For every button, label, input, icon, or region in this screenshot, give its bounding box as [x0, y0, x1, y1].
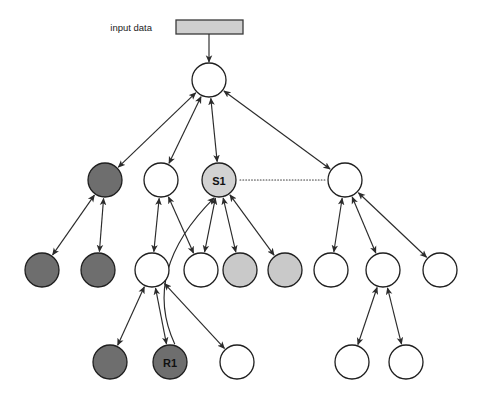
node-circle-n2d[interactable] [328, 163, 362, 197]
edge-n2b-n3d [169, 197, 194, 253]
edge-root-n2a [118, 93, 195, 167]
node-circle-n3b[interactable] [81, 253, 115, 287]
node-circle-S1[interactable] [202, 163, 236, 197]
node-n4e[interactable] [389, 345, 423, 379]
edge-n3c-n4c [165, 284, 225, 349]
edge-n3h-n4d [358, 288, 377, 345]
node-circle-n4e[interactable] [389, 345, 423, 379]
edge-n2d-n3i [358, 193, 426, 258]
edge-n3h-n4e [387, 288, 401, 344]
node-n3g[interactable] [314, 253, 348, 287]
node-n3a[interactable] [25, 253, 59, 287]
node-circle-R1[interactable] [153, 345, 187, 379]
node-circle-n2a[interactable] [88, 163, 122, 197]
edge-n2a-n3b [99, 198, 103, 251]
node-circle-n3e[interactable] [223, 253, 257, 287]
input-data-box[interactable] [176, 20, 243, 34]
node-S1[interactable]: S1 [202, 163, 236, 197]
node-circle-n4a[interactable] [93, 345, 127, 379]
node-n4d[interactable] [335, 345, 369, 379]
node-circle-n3a[interactable] [25, 253, 59, 287]
node-n3c[interactable] [135, 253, 169, 287]
edge-n3c-R1 [156, 288, 167, 344]
edge-S1-n3f [230, 195, 274, 255]
input-data-label: input data [110, 22, 152, 33]
node-circle-n3d[interactable] [184, 253, 218, 287]
node-circle-n3h[interactable] [366, 253, 400, 287]
diagram-canvas: S1R1 input data [0, 0, 479, 403]
node-R1[interactable]: R1 [153, 345, 187, 379]
tree-diagram: S1R1 input data [0, 0, 479, 403]
node-n3d[interactable] [184, 253, 218, 287]
node-circle-root[interactable] [192, 63, 226, 97]
node-n3i[interactable] [423, 253, 457, 287]
node-circle-n3i[interactable] [423, 253, 457, 287]
edge-root-n2b [169, 97, 201, 164]
nodes-layer: S1R1 [25, 63, 457, 379]
node-n3f[interactable] [268, 253, 302, 287]
edge-S1-n3e [223, 198, 236, 252]
node-circle-n3g[interactable] [314, 253, 348, 287]
node-circle-n3f[interactable] [268, 253, 302, 287]
node-circle-n4d[interactable] [335, 345, 369, 379]
node-n4a[interactable] [93, 345, 127, 379]
node-circle-n3c[interactable] [135, 253, 169, 287]
node-circle-n4c[interactable] [220, 345, 254, 379]
edge-n2b-n3c [154, 198, 159, 251]
node-n3b[interactable] [81, 253, 115, 287]
edges-layer [53, 91, 427, 348]
edge-n2d-n3g [334, 198, 342, 251]
edge-n3c-n4a [118, 287, 145, 345]
node-n2d[interactable] [328, 163, 362, 197]
node-circle-n2b[interactable] [144, 163, 178, 197]
edge-n2a-n3a [53, 195, 95, 255]
edge-root-n2d [224, 91, 330, 169]
node-n2a[interactable] [88, 163, 122, 197]
node-n4c[interactable] [220, 345, 254, 379]
node-n2b[interactable] [144, 163, 178, 197]
input-data-layer: input data [110, 20, 243, 62]
node-n3h[interactable] [366, 253, 400, 287]
node-root[interactable] [192, 63, 226, 97]
node-n3e[interactable] [223, 253, 257, 287]
edge-root-S1 [211, 98, 217, 161]
